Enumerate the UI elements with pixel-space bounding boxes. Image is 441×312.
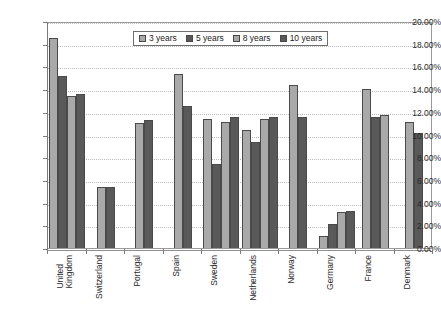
plot-frame [47, 22, 432, 249]
y-axis-tick-label: 2.00% [397, 222, 441, 231]
x-axis-tick-mark [317, 249, 318, 254]
bar [67, 96, 76, 248]
legend-item-label: 8 years [243, 34, 271, 43]
x-axis-tick-mark [163, 249, 164, 254]
y-axis-tick-label: 6.00% [397, 177, 441, 186]
bar-group [125, 23, 164, 248]
bar-group [241, 23, 280, 248]
bar [144, 120, 153, 248]
legend-item-label: 3 years [149, 34, 177, 43]
y-axis-tick-mark [43, 226, 47, 227]
x-axis-category-label: United Kingdom [56, 255, 74, 289]
y-axis-tick-label: 10.00% [397, 131, 441, 140]
x-axis-tick-mark [394, 249, 395, 254]
legend-swatch-icon [280, 35, 287, 42]
bar [328, 224, 337, 248]
x-axis-tick-mark [47, 249, 48, 254]
bar-group [87, 23, 126, 248]
bar [49, 38, 58, 248]
bar-group [318, 23, 357, 248]
y-axis-tick-mark [43, 67, 47, 68]
y-axis-tick-mark [43, 45, 47, 46]
y-axis-tick-mark [43, 204, 47, 205]
y-axis-tick-label: 8.00% [397, 154, 441, 163]
y-axis-tick-mark [43, 22, 47, 23]
bar [230, 117, 239, 248]
legend-swatch-icon [186, 35, 193, 42]
bar [97, 187, 106, 248]
bar [380, 115, 389, 248]
x-axis-category-label: France [364, 255, 373, 281]
x-axis-tick-mark [278, 249, 279, 254]
bar [269, 117, 278, 248]
x-axis-tick-mark [355, 249, 356, 254]
x-axis-category-label: Norway [287, 255, 296, 284]
legend-swatch-icon [139, 35, 146, 42]
bar [183, 106, 192, 248]
x-axis-tick-mark [201, 249, 202, 254]
bar-chart: 20.00%18.00%16.00%14.00%12.00%10.00%8.00… [0, 0, 441, 312]
bar-group [356, 23, 395, 248]
y-axis-tick-mark [43, 158, 47, 159]
bar [135, 123, 144, 248]
bar [346, 211, 355, 248]
bar [76, 94, 85, 248]
bar [203, 119, 212, 248]
legend-item: 3 years [139, 34, 177, 43]
bar [260, 119, 269, 248]
legend-item-label: 5 years [196, 34, 224, 43]
x-axis-category-label: Netherlands [249, 255, 258, 301]
bar-group [164, 23, 203, 248]
chart-legend: 3 years5 years8 years10 years [133, 31, 328, 46]
bar [289, 85, 298, 248]
x-axis-tick-mark [240, 249, 241, 254]
plot-area [48, 23, 431, 248]
bar [58, 76, 67, 248]
y-axis-line [47, 22, 48, 249]
y-axis-tick-label: 12.00% [397, 109, 441, 118]
x-axis-tick-mark [432, 249, 433, 254]
legend-item: 5 years [186, 34, 224, 43]
legend-item: 10 years [280, 34, 323, 43]
legend-item: 8 years [233, 34, 271, 43]
y-axis-tick-mark [43, 90, 47, 91]
y-axis-tick-label: 20.00% [397, 18, 441, 27]
x-axis-tick-mark [124, 249, 125, 254]
y-axis-tick-label: 18.00% [397, 40, 441, 49]
bar [319, 236, 328, 248]
bar [298, 117, 307, 248]
x-axis-tick-mark [86, 249, 87, 254]
bar [106, 187, 115, 248]
legend-swatch-icon [233, 35, 240, 42]
bar-group [202, 23, 241, 248]
x-axis-category-label: Spain [172, 255, 181, 277]
y-axis-tick-label: 16.00% [397, 63, 441, 72]
y-axis-tick-mark [43, 181, 47, 182]
bar [337, 212, 346, 248]
y-axis-tick-mark [43, 113, 47, 114]
y-axis-tick-label: 14.00% [397, 86, 441, 95]
bar [212, 164, 221, 248]
bar-group [48, 23, 87, 248]
bar-group [279, 23, 318, 248]
x-axis-category-label: Portugal [133, 255, 142, 287]
legend-item-label: 10 years [290, 34, 323, 43]
bar [221, 122, 230, 248]
bar [251, 142, 260, 248]
x-axis-category-label: Denmark [403, 255, 412, 289]
x-axis-category-label: Germany [326, 255, 335, 290]
bar [362, 89, 371, 248]
y-axis-tick-mark [43, 136, 47, 137]
bar [174, 74, 183, 248]
x-axis-category-label: Switzerland [95, 255, 104, 299]
x-axis-category-label: Sweden [210, 255, 219, 286]
bar [371, 117, 380, 248]
y-axis-tick-label: 0.00% [397, 245, 441, 254]
bar [242, 130, 251, 248]
y-axis-tick-label: 4.00% [397, 199, 441, 208]
